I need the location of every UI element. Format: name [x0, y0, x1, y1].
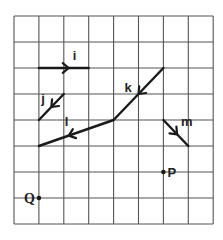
vector-label: l: [65, 114, 69, 129]
vectors-layer: ijklm: [39, 48, 193, 146]
point-dot: [37, 196, 42, 201]
point-label: Q: [24, 191, 35, 206]
vector-l: l: [39, 114, 114, 146]
point-label: P: [167, 165, 176, 180]
vector-label: k: [125, 80, 133, 95]
vector-label: i: [73, 48, 77, 63]
vector-label: j: [40, 91, 45, 106]
point-dot: [161, 170, 166, 175]
vector-j: j: [39, 91, 64, 120]
vector-label: m: [181, 114, 193, 129]
vector-line: [39, 120, 114, 146]
points-layer: PQ: [24, 165, 177, 206]
grid-diagram: ijklm PQ: [0, 0, 223, 240]
